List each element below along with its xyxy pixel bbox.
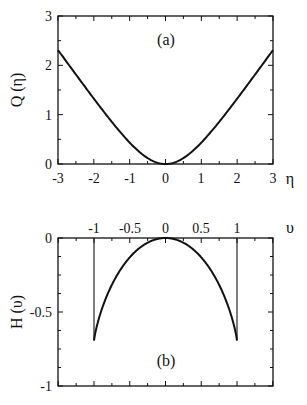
x-tick-1: 1: [198, 171, 205, 186]
figure: 0 1 2 3 -3 -2 -1 0 1 2 3 η Q (η) (a) -1 …: [0, 0, 307, 405]
x-tick-3: 3: [270, 171, 277, 186]
x-tick-05: 0.5: [192, 221, 210, 236]
y-tick-m1: -1: [40, 379, 52, 394]
q-curve: [58, 50, 273, 164]
h-curve: [94, 238, 237, 341]
panel-b: -1 -0.5 0 0.5 1 υ 0 -0.5 -1 H (υ) (b): [8, 219, 294, 394]
panel-a: 0 1 2 3 -3 -2 -1 0 1 2 3 η Q (η) (a): [8, 9, 294, 188]
y-tick-3: 3: [45, 9, 52, 24]
x-tick-m2: -2: [88, 171, 100, 186]
x-tick-0: 0: [162, 221, 169, 236]
x-axis-label-upsilon: υ: [286, 219, 294, 236]
panel-label-a: (a): [157, 31, 175, 49]
x-tick-m05: -0.5: [119, 221, 141, 236]
y-tick-m05: -0.5: [30, 305, 52, 320]
x-tick-2: 2: [234, 171, 241, 186]
y-tick-0: 0: [45, 231, 52, 246]
x-tick-0: 0: [162, 171, 169, 186]
x-tick-m1: -1: [88, 221, 100, 236]
y-tick-2: 2: [45, 58, 52, 73]
x-tick-1: 1: [234, 221, 241, 236]
x-tick-m1: -1: [124, 171, 136, 186]
y-axis-label-h: H (υ): [8, 295, 26, 329]
x-axis-label-eta: η: [286, 170, 294, 188]
y-tick-0: 0: [45, 157, 52, 172]
y-tick-1: 1: [45, 108, 52, 123]
x-tick-m3: -3: [52, 171, 64, 186]
y-axis-label-q: Q (η): [8, 73, 26, 108]
panel-label-b: (b): [157, 352, 176, 370]
